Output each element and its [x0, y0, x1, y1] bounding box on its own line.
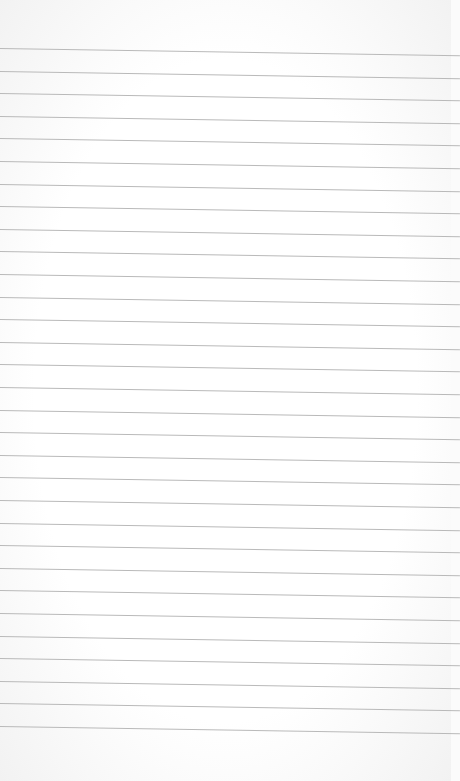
ruled-line [0, 138, 460, 146]
ruled-line [0, 274, 460, 282]
ruled-line [0, 726, 460, 734]
ruled-line [0, 613, 460, 621]
ruled-line [0, 116, 460, 124]
ruled-line [0, 477, 460, 485]
ruled-line [0, 342, 460, 350]
ruled-line [0, 71, 460, 79]
ruled-line [0, 364, 460, 372]
ruled-line [0, 545, 460, 553]
ruled-line [0, 410, 460, 418]
ruled-line [0, 184, 460, 192]
ruled-line [0, 523, 460, 531]
ruled-line [0, 48, 460, 56]
ruled-line [0, 251, 460, 259]
ruled-line [0, 319, 460, 327]
ruled-line [0, 206, 460, 214]
ruled-line [0, 636, 460, 644]
ruled-line [0, 161, 460, 169]
ruled-line [0, 229, 460, 237]
ruled-line [0, 455, 460, 463]
ruled-line [0, 500, 460, 508]
ruled-line [0, 703, 460, 711]
ruled-line [0, 681, 460, 689]
ruled-line [0, 658, 460, 666]
ruled-line [0, 590, 460, 598]
ruled-line [0, 93, 460, 101]
ruled-line [0, 432, 460, 440]
ruled-line [0, 387, 460, 395]
ruled-line [0, 568, 460, 576]
ruled-line [0, 297, 460, 305]
